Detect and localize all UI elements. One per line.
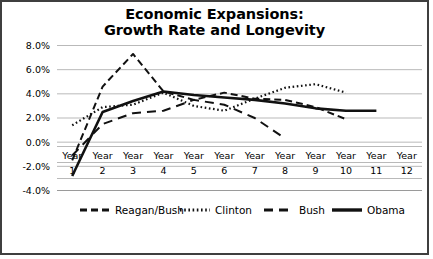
legend-label-bush: Bush	[299, 204, 325, 216]
legend-label-reagan-bush: Reagan/Bush	[115, 204, 184, 216]
x-axis-tick-label: Year	[365, 150, 386, 161]
x-axis-tick-label: Year	[122, 150, 143, 161]
x-axis-tick-label: Year	[213, 150, 234, 161]
x-axis-tick-number: 5	[191, 165, 197, 176]
x-axis-tick-label: Year	[244, 150, 265, 161]
chart-title: Economic Expansions: Growth Rate and Lon…	[2, 2, 427, 38]
x-axis-tick-labels: Year1Year2Year3Year4Year5Year6Year7Year8…	[57, 147, 422, 179]
y-axis-tick-label: 4.0%	[26, 88, 50, 99]
y-axis-tick-label: 2.0%	[26, 112, 50, 123]
line-chart-plot: 8.0%6.0%4.0%2.0%0.0%-2.0%-4.0% Year1Year…	[2, 38, 431, 250]
gridlines	[57, 46, 422, 191]
x-axis-tick-label: Year	[304, 150, 325, 161]
chart-title-line-1: Economic Expansions:	[2, 6, 427, 22]
chart-legend: Reagan/BushClintonBushObama	[80, 204, 405, 216]
x-axis-tick-label: Year	[152, 150, 173, 161]
x-axis-tick-label: Year	[335, 150, 356, 161]
y-axis-tick-label: -4.0%	[22, 185, 50, 196]
x-axis-tick-number: 9	[313, 165, 319, 176]
x-axis-tick-number: 10	[340, 165, 352, 176]
x-axis-tick-label: Year	[183, 150, 204, 161]
y-axis-tick-label: 6.0%	[26, 64, 50, 75]
x-axis-tick-number: 8	[282, 165, 288, 176]
x-axis-tick-number: 6	[221, 165, 227, 176]
x-axis-tick-number: 2	[100, 165, 106, 176]
y-axis-tick-label: 0.0%	[26, 137, 50, 148]
x-axis-tick-number: 12	[401, 165, 413, 176]
x-axis-tick-label: Year	[92, 150, 113, 161]
x-axis-tick-label: Year	[396, 150, 417, 161]
y-axis-tick-label: -2.0%	[22, 161, 50, 172]
y-axis-tick-labels: 8.0%6.0%4.0%2.0%0.0%-2.0%-4.0%	[22, 40, 50, 196]
series-line-bush	[72, 100, 285, 156]
legend-label-obama: Obama	[367, 204, 405, 216]
legend-label-clinton: Clinton	[215, 204, 252, 216]
x-axis-tick-number: 11	[370, 165, 382, 176]
y-axis-tick-label: 8.0%	[26, 40, 50, 51]
x-axis-tick-number: 3	[130, 165, 136, 176]
series-line-clinton	[72, 84, 346, 125]
x-axis-tick-number: 7	[252, 165, 258, 176]
chart-title-line-2: Growth Rate and Longevity	[2, 22, 427, 38]
chart-container: Economic Expansions: Growth Rate and Lon…	[0, 0, 429, 255]
x-axis-tick-label: Year	[274, 150, 295, 161]
x-axis-tick-number: 4	[160, 165, 166, 176]
